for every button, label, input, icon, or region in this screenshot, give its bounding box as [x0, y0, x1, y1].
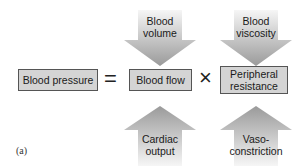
blood-pressure-box: Blood pressure	[18, 69, 98, 91]
panel-label: (a)	[16, 145, 27, 156]
blood-volume-label: Blood volume	[124, 15, 196, 39]
cardiac-output-label: Cardiac output	[124, 133, 196, 157]
vasoconstriction-label: Vaso- constriction	[220, 133, 292, 157]
blood-flow-box: Blood flow	[129, 69, 192, 91]
vasoconstriction-arrow: Vaso- constriction	[220, 106, 292, 166]
equals-sign: =	[104, 68, 117, 90]
blood-flow-label: Blood flow	[136, 74, 184, 86]
blood-viscosity-label: Blood viscosity	[220, 15, 292, 39]
cardiac-output-arrow: Cardiac output	[124, 106, 196, 166]
multiply-sign: ×	[199, 67, 212, 89]
blood-pressure-label: Blood pressure	[23, 74, 94, 86]
blood-volume-arrow: Blood volume	[124, 10, 196, 66]
peripheral-resistance-label: Peripheral resistance	[226, 68, 282, 92]
blood-viscosity-arrow: Blood viscosity	[220, 10, 292, 66]
peripheral-resistance-box: Peripheral resistance	[220, 66, 288, 94]
